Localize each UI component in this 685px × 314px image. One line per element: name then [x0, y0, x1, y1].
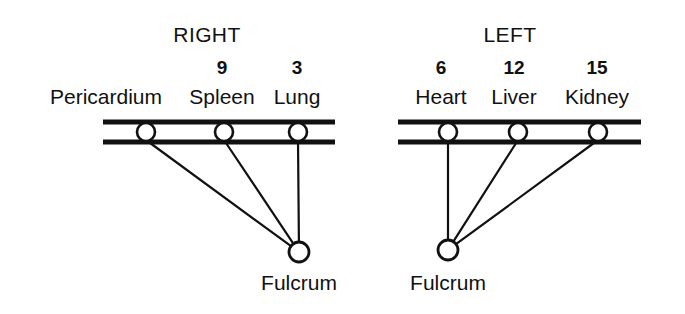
fulcrum-ring-right — [289, 242, 309, 262]
organ-label-lung: Lung — [274, 86, 321, 107]
right-side-assembly — [103, 122, 335, 262]
heading-right: RIGHT — [173, 24, 240, 45]
lever-diagram-canvas — [0, 0, 685, 314]
left-side-assembly — [398, 122, 641, 260]
fulcrum-label-right: Fulcrum — [261, 272, 337, 293]
pivot-ring-liver — [509, 123, 527, 141]
organ-label-spleen: Spleen — [189, 86, 254, 107]
pivot-ring-lung — [289, 123, 307, 141]
pivot-ring-heart — [439, 123, 457, 141]
organ-label-kidney: Kidney — [565, 86, 629, 107]
connector-line-lung — [298, 140, 299, 243]
connector-line-spleen — [224, 140, 294, 245]
organ-label-pericardium: Pericardium — [50, 86, 162, 107]
weight-value-lung: 3 — [292, 58, 303, 77]
weight-value-liver: 12 — [503, 58, 524, 77]
connector-line-liver — [453, 140, 518, 242]
left-side-pivot-rings — [439, 123, 607, 141]
pivot-ring-kidney — [589, 123, 607, 141]
lever-diagram: RIGHT LEFT 9 3 Pericardium Spleen Lung 6… — [0, 0, 685, 314]
organ-label-liver: Liver — [491, 86, 537, 107]
connector-line-pericardium — [146, 140, 292, 247]
fulcrum-label-left: Fulcrum — [410, 272, 486, 293]
weight-value-heart: 6 — [436, 58, 447, 77]
right-side-pivot-rings — [137, 123, 307, 141]
fulcrum-ring-left — [438, 240, 458, 260]
organ-label-heart: Heart — [415, 86, 466, 107]
heading-left: LEFT — [484, 24, 537, 45]
connector-line-kidney — [455, 140, 598, 245]
right-side-connector-lines — [146, 140, 299, 247]
pivot-ring-spleen — [215, 123, 233, 141]
left-side-connector-lines — [448, 140, 598, 245]
weight-value-spleen: 9 — [217, 58, 228, 77]
weight-value-kidney: 15 — [586, 58, 607, 77]
pivot-ring-pericardium — [137, 123, 155, 141]
